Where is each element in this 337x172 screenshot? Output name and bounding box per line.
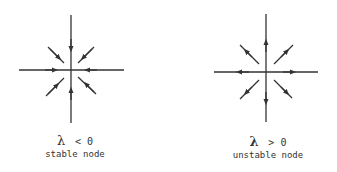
- stable-node-label: λ < 0 stable node: [30, 130, 120, 159]
- stable-node-diagram: [19, 15, 124, 123]
- lambda-symbol: λ: [250, 134, 259, 149]
- eigenvalue-condition: > 0: [268, 137, 286, 148]
- unstable-node-diagram: [214, 14, 318, 122]
- eigenvalue-condition: < 0: [75, 136, 93, 147]
- node-caption: stable node: [30, 149, 120, 159]
- lambda-symbol: λ: [57, 133, 65, 148]
- unstable-node-label: λ > 0 unstable node: [218, 131, 318, 160]
- node-caption: unstable node: [218, 150, 318, 160]
